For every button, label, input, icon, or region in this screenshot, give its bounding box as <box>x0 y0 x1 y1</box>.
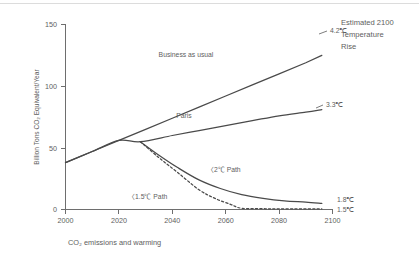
annotation-rise: Rise <box>341 42 356 51</box>
x-tick-label-2040: 2040 <box>164 216 180 225</box>
y-tick-label-0: 0 <box>53 205 57 214</box>
series-label-business-as-usual: Business as usual <box>159 51 214 58</box>
series-line-1p5c-path <box>140 142 322 209</box>
leader-line-4p2c <box>319 31 327 34</box>
y-tick-label-50: 50 <box>49 144 57 153</box>
leader-line-3p3c <box>316 105 323 108</box>
y-axis-ticks <box>61 25 66 210</box>
y-tick-label-100: 100 <box>45 82 57 91</box>
chart-caption: CO₂ emissions and warming <box>68 238 161 247</box>
series-label-paris: Paris <box>176 112 192 119</box>
series-line-paris <box>66 110 322 163</box>
series-label-2c-path: 〈2℃ Path <box>207 166 241 173</box>
y-axis-title: Billion Tons CO₂ Equivalent/Year <box>33 69 41 165</box>
annotation-temperature: Temperature <box>341 30 384 39</box>
y-tick-label-150: 150 <box>45 20 57 29</box>
series-label-1p5c-path: 〈1.5℃ Path <box>128 193 168 200</box>
x-tick-label-2080: 2080 <box>271 216 287 225</box>
x-tick-label-2100: 2100 <box>325 216 341 225</box>
endpoint-label-3p3c: 3.3℃ <box>326 101 343 108</box>
x-axis-ticks <box>66 210 333 215</box>
x-tick-label-2020: 2020 <box>111 216 127 225</box>
endpoint-label-1p5c: 1.5℃ <box>337 206 354 213</box>
x-tick-label-2060: 2060 <box>218 216 234 225</box>
annotation-estimated-2100: Estimated 2100 <box>341 18 394 27</box>
x-tick-label-2000: 2000 <box>58 216 74 225</box>
endpoint-label-1p8c: 1.8℃ <box>337 196 354 203</box>
figure-container: 150 100 50 0 2000 2020 2040 2060 2080 21… <box>0 0 419 261</box>
chart-canvas: 150 100 50 0 2000 2020 2040 2060 2080 21… <box>0 0 419 261</box>
